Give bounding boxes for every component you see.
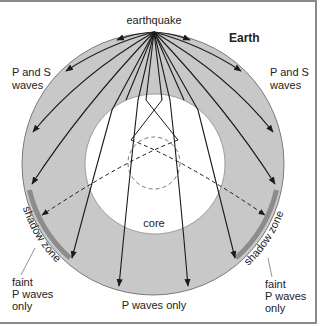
faint-left-line1: faint	[12, 276, 33, 288]
core-label: core	[143, 217, 164, 229]
leader-line-right	[268, 258, 272, 277]
faint-right-line1: faint	[265, 278, 286, 290]
outer-core	[85, 94, 225, 234]
ps-waves-left-line1: P and S	[12, 66, 51, 78]
faint-left-line2: P waves	[12, 288, 53, 300]
seismic-wave-diagram: shadow zone shadow zone earthquake Earth…	[0, 0, 326, 326]
earthquake-label: earthquake	[126, 14, 181, 26]
faint-right-line3: only	[265, 302, 285, 314]
faint-right-line2: P waves	[265, 290, 306, 302]
ps-waves-right-line1: P and S	[270, 66, 309, 78]
ps-waves-left-line2: waves	[12, 79, 43, 91]
earth-title: Earth	[229, 32, 260, 44]
ps-waves-right-line2: waves	[270, 79, 301, 91]
p-waves-only-label: P waves only	[122, 299, 187, 311]
faint-left-line3: only	[12, 300, 32, 312]
leader-line-left	[21, 248, 35, 275]
